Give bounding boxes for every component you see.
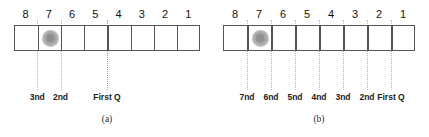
coin-marker-icon — [252, 30, 269, 47]
panel-a-cell-8[interactable] — [15, 26, 38, 50]
panel-a: 8 7 6 5 4 3 2 1 — [14, 0, 200, 137]
panel-b-index-2: 2 — [367, 6, 391, 22]
panel-a-cell-4[interactable] — [108, 26, 131, 50]
panel-a-cell-2[interactable] — [155, 26, 178, 50]
panel-a-index-7: 7 — [37, 6, 60, 22]
panel-a-index-4: 4 — [107, 6, 130, 22]
panel-a-cell-3[interactable] — [131, 26, 154, 50]
panel-a-cell-1[interactable] — [178, 26, 201, 50]
coin-marker-icon — [42, 30, 59, 47]
panel-a-divider-4 — [107, 26, 108, 50]
panel-a-cell-5[interactable] — [85, 26, 108, 50]
panel-b-index-8: 8 — [223, 6, 247, 22]
panel-b-divider-3 — [295, 26, 296, 50]
panel-a-index-3: 3 — [130, 6, 153, 22]
panel-b-cell-3[interactable] — [344, 26, 368, 50]
panel-b-query-label-first-q: First Q — [368, 92, 414, 103]
panel-b-index-6: 6 — [271, 6, 295, 22]
panel-b-array — [223, 25, 415, 51]
panel-b-cell-8[interactable] — [224, 26, 248, 50]
panel-b-cell-6[interactable] — [272, 26, 296, 50]
panel-a-divider-7 — [177, 26, 178, 50]
panel-a-divider-6 — [154, 26, 155, 50]
panel-a-query-label-2nd: 2nd — [41, 92, 81, 103]
panel-b-divider-5 — [343, 26, 344, 50]
panel-a-divider-3 — [84, 26, 85, 50]
panel-b-index-7: 7 — [247, 6, 271, 22]
panel-a-index-5: 5 — [84, 6, 107, 22]
panel-a-array — [14, 25, 200, 51]
panel-a-index-1: 1 — [177, 6, 200, 22]
panel-b-index-4: 4 — [319, 6, 343, 22]
panel-a-index-2: 2 — [154, 6, 177, 22]
panel-b-cell-1[interactable] — [392, 26, 416, 50]
panel-b-index-3: 3 — [343, 6, 367, 22]
panel-b-divider-2 — [271, 26, 272, 50]
panel-a-divider-5 — [131, 26, 132, 50]
panel-a-caption: (a) — [14, 113, 200, 125]
panel-a-divider-1 — [38, 26, 39, 50]
panel-b-divider-4 — [319, 26, 320, 50]
panel-b: 8 7 6 5 4 3 2 1 — [223, 0, 415, 137]
panel-b-cell-2[interactable] — [368, 26, 392, 50]
array-query-figure: 8 7 6 5 4 3 2 1 — [0, 0, 429, 137]
panel-b-divider-7 — [391, 26, 392, 50]
panel-b-divider-1 — [247, 26, 248, 50]
panel-a-divider-2 — [61, 26, 62, 50]
panel-b-cell-5[interactable] — [296, 26, 320, 50]
panel-a-query-label-first-q: First Q — [84, 92, 130, 103]
panel-b-cell-4[interactable] — [320, 26, 344, 50]
panel-b-index-5: 5 — [295, 6, 319, 22]
panel-a-index-8: 8 — [14, 6, 37, 22]
panel-b-divider-6 — [367, 26, 368, 50]
panel-b-caption: (b) — [223, 113, 415, 125]
panel-a-cell-6[interactable] — [62, 26, 85, 50]
panel-b-index-1: 1 — [391, 6, 415, 22]
panel-a-index-6: 6 — [61, 6, 84, 22]
